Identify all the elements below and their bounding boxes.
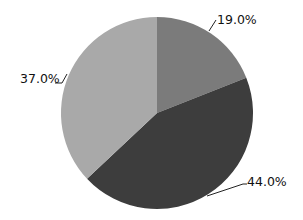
leader-line <box>209 20 216 31</box>
slice-label-44: 44.0% <box>247 174 287 189</box>
pie-chart: 19.0% 44.0% 37.0% <box>0 0 303 220</box>
slice-label-37: 37.0% <box>20 71 60 86</box>
pie-slices <box>61 17 253 209</box>
slice-label-19: 19.0% <box>217 12 257 27</box>
